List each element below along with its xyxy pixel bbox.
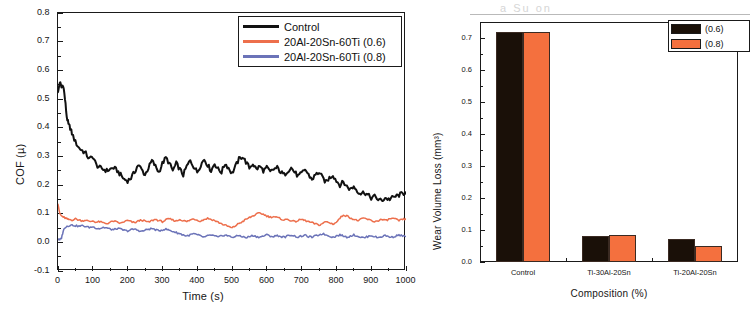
wear-y-tick-label: 0.3 [462,161,472,170]
wear-bar[interactable] [582,236,609,262]
wear-x-category-label: Ti-20Al-20Sn [673,268,717,277]
cof-x-tick-label: 400 [189,275,204,285]
wear-y-minor-tick [480,86,483,87]
cof-x-axis-label: Time (s) [182,290,224,302]
cof-x-tick-label: 800 [328,275,343,285]
wear-y-tick-label: 0.5 [462,97,472,106]
cof-series-line [58,204,406,227]
wear-y-tick-label: 0.1 [462,225,472,234]
wear-x-tick-mark [566,258,567,262]
cof-legend-label: 20Al-20Sn-60Ti (0.8) [284,51,386,63]
cof-x-tick-label: 500 [224,275,239,285]
wear-x-category-label: Ti-30Al-20Sn [587,268,631,277]
wear-chart-panel: Wear Volume Loss (mm³) Composition (%) 0… [420,0,750,309]
wear-y-tick-mark [480,230,485,231]
wear-y-minor-tick [480,54,483,55]
wear-legend: (0.6)(0.8) [668,20,750,52]
cof-legend-label: Control [284,21,319,33]
wear-y-tick-label: 0.6 [462,65,472,74]
wear-y-tick-mark [480,70,485,71]
cof-series-line [58,82,406,201]
cof-x-tick-label: 700 [294,275,309,285]
wear-bar[interactable] [668,239,695,262]
wear-x-tick-mark [652,258,653,262]
cof-y-tick-label: 0.1 [37,207,50,217]
cof-chart-panel: COF (µ) Time (s) -0.10.00.10.20.30.40.50… [0,0,420,309]
wear-legend-item[interactable]: (0.6) [669,21,749,36]
wear-y-tick-label: 0.0 [462,257,472,266]
cof-legend-item[interactable]: 20Al-20Sn-60Ti (0.8) [239,49,401,64]
figure-root: a Su on COF (µ) Time (s) -0.10.00.10.20.… [0,0,750,309]
cof-y-tick-label: 0.3 [37,150,50,160]
cof-x-tick-label: 100 [85,275,100,285]
cof-x-tick-label: 0 [55,275,60,285]
wear-y-tick-mark [480,198,485,199]
wear-y-tick-mark [480,134,485,135]
cof-x-tick-label: 300 [154,275,169,285]
cof-legend-item[interactable]: Control [239,19,401,34]
wear-y-minor-tick [480,182,483,183]
wear-legend-label: (0.6) [705,24,724,34]
cof-legend: Control20Al-20Sn-60Ti (0.6)20Al-20Sn-60T… [238,16,402,67]
wear-y-minor-tick [480,150,483,151]
cof-x-tick-label: 1000 [396,275,416,285]
cof-y-tick-label: 0.0 [37,236,50,246]
cof-y-tick-mark [58,271,63,272]
cof-legend-label: 20Al-20Sn-60Ti (0.6) [284,36,386,48]
wear-bar[interactable] [523,32,550,262]
cof-legend-swatch [243,25,279,28]
wear-y-minor-tick [480,118,483,119]
wear-legend-label: (0.8) [705,39,724,49]
cof-x-tick-label: 900 [363,275,378,285]
wear-x-axis-label: Composition (%) [571,288,648,299]
wear-y-tick-mark [480,38,485,39]
wear-bar[interactable] [609,235,636,262]
wear-y-minor-tick [480,246,483,247]
cof-legend-swatch [243,55,279,58]
cof-x-tick-mark [406,266,407,271]
cof-legend-swatch [243,40,279,43]
wear-bar[interactable] [496,32,523,262]
wear-legend-item[interactable]: (0.8) [669,36,749,51]
cof-y-tick-label: -0.1 [34,265,50,275]
cof-y-axis-label: COF (µ) [14,144,26,185]
wear-bar[interactable] [695,246,722,262]
wear-legend-swatch [671,39,701,49]
cof-x-tick-label: 600 [259,275,274,285]
cof-y-tick-label: 0.7 [37,35,50,45]
cof-legend-item[interactable]: 20Al-20Sn-60Ti (0.6) [239,34,401,49]
cof-y-tick-label: 0.4 [37,121,50,131]
wear-y-minor-tick [480,214,483,215]
wear-x-category-label: Control [511,268,535,277]
cof-x-tick-label: 200 [120,275,135,285]
cof-y-tick-label: 0.2 [37,179,50,189]
wear-y-tick-mark [480,102,485,103]
wear-y-tick-mark [480,262,485,263]
wear-y-tick-label: 0.2 [462,193,472,202]
cof-y-tick-label: 0.5 [37,93,50,103]
wear-y-tick-label: 0.4 [462,129,472,138]
wear-y-axis-label: Wear Volume Loss (mm³) [432,132,443,250]
wear-y-tick-mark [480,166,485,167]
cof-y-tick-label: 0.8 [37,7,50,17]
wear-legend-swatch [671,24,701,34]
wear-y-tick-label: 0.7 [462,33,472,42]
cof-y-tick-label: 0.6 [37,64,50,74]
